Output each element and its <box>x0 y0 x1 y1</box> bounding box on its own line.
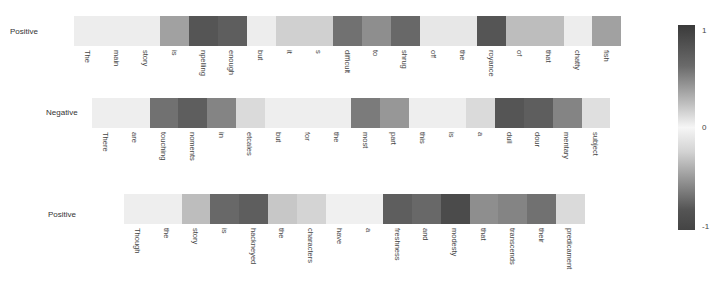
heatmap-cell: of <box>506 16 535 46</box>
heatmap-cell: the <box>153 194 182 224</box>
token-label: but <box>256 50 265 60</box>
heatmap-cell: that <box>470 194 499 224</box>
token-label: transcends <box>508 228 517 265</box>
heatmap-cell: the <box>268 194 297 224</box>
token-label: the <box>458 50 467 60</box>
token-label: dull <box>505 132 514 144</box>
colorbar-tick-min: -1 <box>702 222 709 231</box>
token-label: etcales <box>245 132 254 156</box>
token-label: shrug <box>400 50 409 69</box>
heatmap-cell: predicament <box>556 194 585 224</box>
token-label: the <box>277 228 286 238</box>
token-label: for <box>303 132 312 141</box>
token-label: difficult <box>343 50 352 73</box>
heatmap-cell: touching <box>150 98 179 128</box>
heatmap-cell: but <box>265 98 294 128</box>
heatmap-row: Therearetouchingnomentsinetcalesbutforth… <box>92 98 610 128</box>
heatmap-cell: most <box>351 98 380 128</box>
heatmap-cell: it <box>276 16 305 46</box>
heatmap-cell: s <box>304 16 333 46</box>
heatmap-cell: npelling <box>189 16 218 46</box>
heatmap-cell: modesty <box>441 194 470 224</box>
heatmap-cell: dull <box>495 98 524 128</box>
token-label: main <box>112 50 121 66</box>
heatmap-cell: the <box>448 16 477 46</box>
token-label: subject <box>591 132 600 156</box>
colorbar <box>678 25 695 230</box>
heatmap-cell: mentary <box>553 98 582 128</box>
heatmap-cell: to <box>362 16 391 46</box>
token-label: touching <box>159 132 168 160</box>
token-label: it <box>285 50 294 54</box>
token-label: mentary <box>562 132 571 159</box>
heatmap-cell: this <box>409 98 438 128</box>
token-label: the <box>332 132 341 142</box>
token-label: this <box>418 132 427 144</box>
row-label: Negative <box>46 108 78 117</box>
heatmap-cell: off <box>420 16 449 46</box>
heatmap-cell: The <box>74 16 103 46</box>
heatmap-cell: a <box>354 194 383 224</box>
heatmap-cell: difficult <box>333 16 362 46</box>
token-label: to <box>371 50 380 56</box>
heatmap-cell: their <box>527 194 556 224</box>
token-label: is <box>170 50 179 55</box>
heatmap-cell: story <box>132 16 161 46</box>
heatmap-cell: main <box>103 16 132 46</box>
token-label: predicament <box>565 228 574 269</box>
token-label: story <box>191 228 200 244</box>
token-label: There <box>101 132 110 152</box>
heatmap-cell: subject <box>582 98 611 128</box>
heatmap-row: Thoughthestoryishackneyedthecharactersha… <box>124 194 585 224</box>
token-label: dour <box>533 132 542 147</box>
token-label: enough <box>227 50 236 75</box>
token-label: that <box>479 228 488 241</box>
heatmap-cell: story <box>182 194 211 224</box>
heatmap-cell: shrug <box>391 16 420 46</box>
heatmap-cell: royance <box>477 16 506 46</box>
token-label: but <box>274 132 283 142</box>
token-label: npelling <box>199 50 208 76</box>
token-label: characters <box>306 228 315 263</box>
row-label: Positive <box>10 27 38 36</box>
heatmap-cell: is <box>438 98 467 128</box>
heatmap-cell: freshness <box>383 194 412 224</box>
heatmap-cell: fish <box>592 16 621 46</box>
heatmap-cell: is <box>160 16 189 46</box>
token-label: part <box>389 132 398 145</box>
heatmap-cell: enough <box>218 16 247 46</box>
token-label: noments <box>188 132 197 161</box>
token-label: that <box>544 50 553 63</box>
token-label: a <box>476 132 485 136</box>
token-label: have <box>335 228 344 244</box>
heatmap-cell: the <box>322 98 351 128</box>
colorbar-tick-zero: 0 <box>702 123 706 132</box>
token-label: fish <box>602 50 611 62</box>
token-label: and <box>421 228 430 241</box>
heatmap-cell: and <box>412 194 441 224</box>
token-label: off <box>429 50 438 58</box>
heatmap-cell: part <box>380 98 409 128</box>
token-label: story <box>141 50 150 66</box>
token-label: their <box>537 228 546 243</box>
heatmap-cell: etcales <box>236 98 265 128</box>
heatmap-cell: characters <box>297 194 326 224</box>
heatmap-cell: chatty <box>564 16 593 46</box>
heatmap-cell: a <box>466 98 495 128</box>
token-label: The <box>83 50 92 63</box>
heatmap-cell: but <box>247 16 276 46</box>
token-label: modesty <box>450 228 459 256</box>
token-label: is <box>220 228 229 233</box>
heatmap-cell: is <box>210 194 239 224</box>
token-label: Though <box>133 228 142 253</box>
token-label: chatty <box>573 50 582 70</box>
token-label: most <box>361 132 370 148</box>
token-label: of <box>515 50 524 56</box>
heatmap-cell: in <box>207 98 236 128</box>
heatmap-row: Themainstoryisnpellingenoughbutitsdiffic… <box>74 16 621 46</box>
token-label: in <box>217 132 226 138</box>
token-label: freshness <box>393 228 402 261</box>
token-label: s <box>314 50 323 54</box>
token-label: hackneyed <box>249 228 258 264</box>
heatmap-cell: dour <box>524 98 553 128</box>
